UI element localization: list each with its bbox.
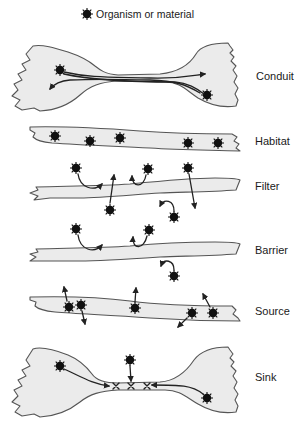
function-label-filter: Filter xyxy=(255,180,280,192)
legend-text: Organism or material xyxy=(96,8,194,20)
organism-icon xyxy=(114,132,126,144)
organism-icon xyxy=(104,204,116,216)
function-label-conduit: Conduit xyxy=(256,70,294,82)
function-label-barrier: Barrier xyxy=(255,244,288,256)
organism-icon xyxy=(54,360,66,372)
panel-habitat: Habitat xyxy=(30,127,290,151)
organism-icon xyxy=(124,354,136,366)
corridor-functions-diagram: Organism or material Conduit Habitat Fil… xyxy=(0,0,305,432)
organism-icon xyxy=(49,130,61,142)
emigration-arrow xyxy=(203,294,210,307)
organism-icon xyxy=(70,162,82,174)
habitat-corridor-shape xyxy=(30,127,240,151)
organism-icon xyxy=(84,135,96,147)
organism-starburst-icon xyxy=(81,8,93,20)
deflect-arrow xyxy=(161,261,174,270)
organism-icon xyxy=(182,137,194,149)
filter-corridor-shape xyxy=(30,178,240,200)
organism-icon xyxy=(142,163,154,175)
organism-icon xyxy=(182,162,194,174)
function-label-habitat: Habitat xyxy=(255,135,290,147)
sink-corridor-shape xyxy=(12,347,238,417)
panel-conduit: Conduit xyxy=(12,43,294,111)
organism-icon xyxy=(143,224,155,236)
legend: Organism or material xyxy=(81,8,194,20)
organism-icon xyxy=(212,137,224,149)
organism-icon xyxy=(201,89,213,101)
organism-icon xyxy=(168,211,180,223)
organism-icon xyxy=(129,302,141,314)
organism-icon xyxy=(207,307,219,319)
organism-icon xyxy=(70,223,82,235)
panel-filter: Filter xyxy=(30,162,280,223)
panel-sink: Sink xyxy=(12,347,277,417)
organism-icon xyxy=(75,299,87,311)
inflow-arrow xyxy=(130,366,131,381)
panel-barrier: Barrier xyxy=(30,223,288,282)
organism-icon xyxy=(168,270,180,282)
panel-source: Source xyxy=(30,287,290,327)
function-label-source: Source xyxy=(255,305,290,317)
organism-icon xyxy=(63,301,75,313)
function-label-sink: Sink xyxy=(255,371,277,383)
deflect-arrow xyxy=(160,201,174,211)
organism-icon xyxy=(186,307,198,319)
emigration-arrow xyxy=(135,288,136,302)
